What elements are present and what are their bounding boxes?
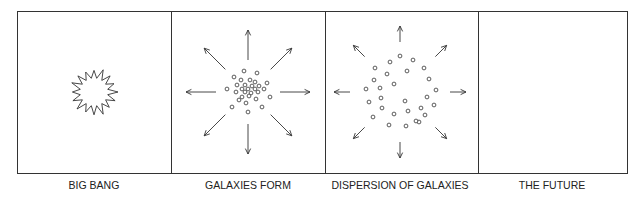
galaxy-dot bbox=[237, 98, 241, 102]
panel-label-dispersion: DISPERSION OF GALAXIES bbox=[331, 179, 468, 191]
panel-galaxies-form bbox=[186, 30, 310, 154]
galaxy-dot bbox=[406, 109, 410, 113]
galaxy-dot bbox=[414, 119, 418, 123]
galaxy-dot bbox=[268, 95, 272, 99]
galaxy-dot bbox=[427, 77, 431, 81]
galaxy-dot bbox=[235, 83, 239, 87]
galaxy-dot bbox=[243, 90, 247, 94]
galaxy-dot bbox=[364, 87, 368, 91]
galaxy-dot bbox=[243, 83, 247, 87]
galaxy-dot bbox=[387, 123, 391, 127]
galaxy-dot bbox=[379, 96, 383, 100]
galaxy-dot bbox=[240, 95, 244, 99]
galaxy-dot bbox=[246, 110, 250, 114]
galaxy-dot bbox=[225, 87, 229, 91]
galaxy-dot bbox=[250, 84, 254, 88]
galaxy-dot bbox=[392, 112, 396, 116]
galaxy-dot bbox=[262, 87, 266, 91]
galaxy-dot bbox=[403, 99, 407, 103]
galaxy-dot bbox=[419, 106, 423, 110]
galaxy-dot bbox=[240, 87, 244, 91]
timeline-frame bbox=[18, 12, 628, 174]
arrow-shaft bbox=[271, 48, 292, 69]
galaxy-dot bbox=[434, 88, 438, 92]
galaxy-dot bbox=[244, 101, 248, 105]
galaxy-dot bbox=[255, 71, 259, 75]
galaxy-dot bbox=[404, 124, 408, 128]
galaxy-dot bbox=[253, 87, 257, 91]
panel-label-big-bang: BIG BANG bbox=[69, 179, 120, 191]
arrow-shaft bbox=[204, 115, 225, 136]
galaxy-dot bbox=[239, 78, 243, 82]
galaxy-dot bbox=[253, 80, 257, 84]
galaxy-dot bbox=[230, 105, 234, 109]
galaxy-dot bbox=[392, 82, 396, 86]
galaxy-dot bbox=[372, 78, 376, 82]
galaxy-dot bbox=[423, 113, 427, 117]
panel-big-bang bbox=[72, 70, 118, 115]
galaxy-dot bbox=[265, 81, 269, 85]
arrow-shaft bbox=[271, 115, 292, 136]
panel-label-galaxies-form: GALAXIES FORM bbox=[205, 179, 291, 191]
galaxy-dot bbox=[422, 66, 426, 70]
galaxy-dot bbox=[385, 72, 389, 76]
galaxy-dot bbox=[257, 84, 261, 88]
galaxy-dot bbox=[248, 78, 252, 82]
galaxy-dot bbox=[232, 75, 236, 79]
galaxy-dot bbox=[411, 58, 415, 62]
galaxy-dot bbox=[380, 106, 384, 110]
galaxy-dot bbox=[378, 86, 382, 90]
galaxy-dot bbox=[405, 69, 409, 73]
galaxy-dot bbox=[242, 69, 246, 73]
galaxy-dot bbox=[398, 54, 402, 58]
galaxy-dot bbox=[256, 90, 260, 94]
universe-timeline-diagram: BIG BANG GALAXIES FORM DISPERSION OF GAL… bbox=[0, 0, 643, 200]
galaxy-dot bbox=[246, 87, 250, 91]
galaxy-dot bbox=[367, 100, 371, 104]
panel-label-future: THE FUTURE bbox=[519, 179, 586, 191]
galaxy-dot bbox=[254, 97, 258, 101]
starburst-icon bbox=[72, 70, 118, 115]
panel-dispersion bbox=[334, 26, 466, 158]
galaxy-dot bbox=[373, 66, 377, 70]
galaxy-dot bbox=[425, 95, 429, 99]
galaxy-dot bbox=[371, 115, 375, 119]
galaxy-dot bbox=[260, 105, 264, 109]
galaxy-dot bbox=[234, 90, 238, 94]
arrow-shaft bbox=[204, 48, 225, 69]
galaxy-dot bbox=[432, 103, 436, 107]
galaxy-dot bbox=[247, 94, 251, 98]
galaxy-dot bbox=[388, 60, 392, 64]
